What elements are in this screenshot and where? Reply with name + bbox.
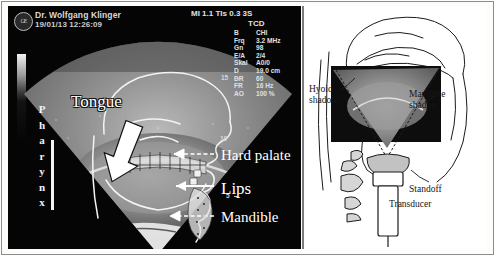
standoff-pad [367,154,409,174]
param-key: AO [234,90,256,98]
param-row: Frq 3.2 MHz [234,37,296,45]
pharynx-letter: x [35,195,49,211]
depth-tick-15: 15 [221,74,228,81]
param-key: B [234,29,256,37]
param-row: B CHI [234,29,296,37]
panel-divider [302,6,304,249]
param-key: Gn [234,44,256,52]
pharynx-label: P h a r y n x [35,102,49,211]
pharynx-letter: y [35,164,49,180]
label-hyoid-line2: shadow [309,95,338,106]
param-row: AO 100 % [234,90,296,98]
param-value: CHI [256,29,296,37]
label-mandible: Mandible [221,209,279,226]
pharynx-letter: P [35,102,49,118]
param-value: 16 Hz [256,82,296,90]
label-hyoid-shadow: Hyoid shadow [309,84,338,106]
param-row: Skal A0/0 [234,59,296,67]
pharynx-letter: a [35,133,49,149]
label-hard-palate: Hard palate [221,147,291,164]
param-value: 2/4 [256,52,296,60]
depth-tick-10: 10 [220,135,227,142]
hyoid-larynx-structures [341,150,363,222]
acoustic-output-readout: MI 1.1 TIs 0.3 3S [191,9,252,18]
head-neck-schematic-svg [305,6,487,249]
pharynx-letter: r [35,149,49,165]
label-mandible-line1: Mandible [409,89,445,100]
mandible-acoustic-shadow [58,223,208,249]
param-value: 100 % [256,90,296,98]
label-mandible-line2: shadow [409,100,445,111]
param-value: 3.2 MHz [256,37,296,45]
depth-tickmark [234,78,238,79]
param-value: A0/0 [256,59,296,67]
param-value: 98 [256,44,296,52]
param-row: E/A 2/4 [234,52,296,60]
param-key: Skal [234,59,256,67]
label-standoff: Standoff [409,184,442,195]
param-row: D 19.0 cm [234,67,296,75]
label-transducer: Transducer [389,199,431,210]
pharynx-letter: h [35,118,49,134]
label-tongue: Tongue [71,92,122,112]
ultrasound-panel: GE Dr. Wolfgang Klinger 19/01/13 12:26:0… [8,6,301,249]
param-key: D [234,67,256,75]
label-mandible-shadow: Mandible shadow [409,89,445,111]
param-value: 60 [256,75,296,83]
param-key: E/A [234,52,256,60]
label-lips: Lips [221,179,251,199]
scan-parameters-panel: B CHI Frq 3.2 MHz Gn 98 E/A 2/4 Skal A0/… [234,29,296,97]
param-key: Frq [234,37,256,45]
param-row: Gn 98 [234,44,296,52]
param-row: DR 60 [234,75,296,83]
param-key: FR [234,82,256,90]
pharynx-extent-bar [51,140,54,210]
param-row: FR 16 Hz [234,82,296,90]
pharynx-letter: n [35,180,49,196]
probe-mode-readout: TCD [248,19,264,28]
label-hyoid-line1: Hyoid [309,84,338,95]
figure-root: GE Dr. Wolfgang Klinger 19/01/13 12:26:0… [0,0,495,256]
param-value: 19.0 cm [256,67,296,75]
physician-name: Dr. Wolfgang Klinger [35,10,121,20]
schematic-panel: Hyoid shadow Mandible shadow Standoff Tr… [305,6,487,249]
